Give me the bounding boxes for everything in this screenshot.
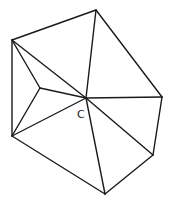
edge-R-LR xyxy=(153,97,162,155)
edge-LR-Bo xyxy=(105,155,153,194)
edge-A-B xyxy=(12,10,96,40)
edges xyxy=(12,10,162,194)
edge-C-R xyxy=(86,97,162,98)
edge-C-B xyxy=(86,10,96,98)
vertex-label-c: C xyxy=(77,108,85,121)
graph-diagram: C xyxy=(0,0,171,203)
edge-Bo-BL xyxy=(12,136,105,194)
edge-I-A xyxy=(12,40,40,88)
edge-B-R xyxy=(96,10,162,97)
